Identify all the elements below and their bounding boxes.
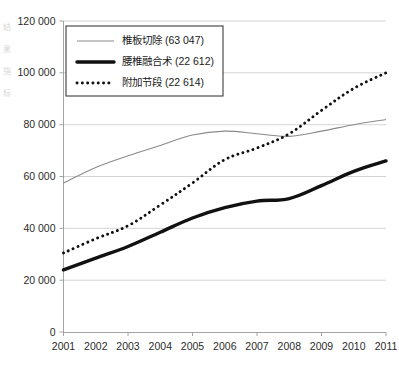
y-tick-label: 60 000 xyxy=(23,170,55,182)
y-tick-label: 40 000 xyxy=(23,222,55,234)
x-tick-label: 2008 xyxy=(278,340,302,352)
x-tick-label: 2004 xyxy=(149,340,173,352)
x-tick-label: 2002 xyxy=(84,340,108,352)
line-chart: 结果指标 020 00040 00060 00080 000100 000120… xyxy=(0,0,399,369)
x-tick-label: 2010 xyxy=(342,340,366,352)
y-axis-ticks: 020 00040 00060 00080 000100 000120 000 xyxy=(18,15,64,338)
y-tick-label: 0 xyxy=(50,326,56,338)
x-tick-label: 2007 xyxy=(245,340,269,352)
y-tick-label: 120 000 xyxy=(18,15,56,27)
x-tick-label: 2003 xyxy=(116,340,140,352)
legend-label-3: 附加节段 (22 614) xyxy=(122,76,204,88)
x-axis-ticks: 2001200220032004200520062007200820092010… xyxy=(52,332,398,352)
x-tick-label: 2001 xyxy=(52,340,76,352)
legend-label-2: 腰椎融合术 (22 612) xyxy=(122,55,214,67)
legend-label-1: 椎板切除 (63 047) xyxy=(122,34,204,46)
y-tick-label: 20 000 xyxy=(23,274,55,286)
y-axis-title-cropped: 结果指标 xyxy=(3,22,11,98)
y-axis-title-fragment: 结 xyxy=(3,22,11,32)
y-axis-title-fragment: 指 xyxy=(3,66,11,76)
chart-legend: 椎板切除 (63 047)腰椎融合术 (22 612)附加节段 (22 614) xyxy=(66,26,223,96)
series-line-2 xyxy=(64,161,387,270)
x-tick-label: 2009 xyxy=(310,340,334,352)
series-lines xyxy=(64,73,387,270)
x-tick-label: 2006 xyxy=(213,340,237,352)
y-axis-title-fragment: 标 xyxy=(3,88,11,98)
x-tick-label: 2005 xyxy=(181,340,205,352)
x-tick-label: 2011 xyxy=(375,340,398,352)
y-tick-label: 80 000 xyxy=(23,118,55,130)
y-axis-title-fragment: 果 xyxy=(3,45,11,54)
series-line-1 xyxy=(64,119,387,182)
y-tick-label: 100 000 xyxy=(18,66,56,78)
chart-canvas: 结果指标 020 00040 00060 00080 000100 000120… xyxy=(0,0,399,369)
series-line-3 xyxy=(64,73,387,253)
